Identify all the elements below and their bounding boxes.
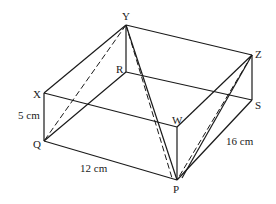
diag-zp-solid bbox=[182, 55, 252, 178]
dimension-height: 5 cm bbox=[18, 109, 40, 121]
dimension-length: 12 cm bbox=[80, 162, 108, 174]
diag-yp-dashed bbox=[126, 25, 172, 178]
edge-zw bbox=[177, 55, 252, 127]
label-r: R bbox=[116, 63, 124, 75]
label-q: Q bbox=[33, 138, 41, 150]
edge-qp bbox=[44, 141, 177, 180]
dimension-width: 16 cm bbox=[226, 135, 254, 147]
edge-xw bbox=[44, 93, 177, 127]
cuboid-diagram: Y Z X R W S Q P 5 cm 12 cm 16 cm bbox=[0, 0, 276, 204]
label-s: S bbox=[255, 99, 261, 111]
label-z: Z bbox=[255, 48, 262, 60]
label-w: W bbox=[172, 114, 183, 126]
edge-yz bbox=[126, 25, 252, 55]
diag-yp-solid bbox=[126, 25, 177, 180]
label-x: X bbox=[33, 88, 41, 100]
label-p: P bbox=[173, 183, 179, 195]
label-y: Y bbox=[122, 10, 130, 22]
